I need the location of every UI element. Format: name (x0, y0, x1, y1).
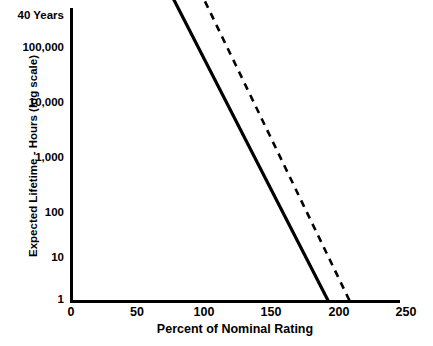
series-line-solid (173, 0, 328, 301)
plot-area (0, 0, 433, 346)
series-line-dashed (205, 1, 350, 301)
chart-figure: 40 Years 100,000 10,000 1,000 100 10 1 0… (0, 0, 433, 346)
